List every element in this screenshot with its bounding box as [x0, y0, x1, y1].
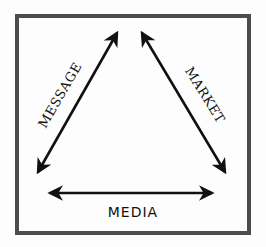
media-label: MEDIA [108, 205, 158, 219]
